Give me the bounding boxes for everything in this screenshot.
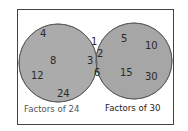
number-30: 30	[145, 71, 158, 82]
label-factors-of-24: Factors of 24	[24, 104, 79, 114]
number-4: 4	[40, 28, 46, 39]
number-1: 1	[91, 36, 97, 47]
label-factors-of-30: Factors of 30	[105, 103, 160, 113]
number-6: 6	[94, 67, 100, 78]
number-15: 15	[120, 67, 133, 78]
number-24: 24	[57, 88, 70, 99]
number-5: 5	[121, 33, 127, 44]
number-2: 2	[97, 48, 103, 59]
number-3: 3	[87, 55, 93, 66]
number-10: 10	[145, 40, 158, 51]
venn-diagram: 4 8 12 24 1 2 3 6 5 10 15 30 Factors of …	[0, 0, 188, 131]
number-8: 8	[50, 55, 56, 66]
number-12: 12	[31, 70, 44, 81]
